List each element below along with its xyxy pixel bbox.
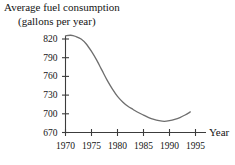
x-axis-title: Year: [209, 126, 229, 138]
x-tick-label-1970: 1970: [53, 141, 79, 151]
y-tick-label-700: 700: [32, 109, 58, 119]
x-tick-label-1990: 1990: [157, 141, 183, 151]
x-tick-label-1995: 1995: [183, 141, 209, 151]
fuel-consumption-curve: [66, 35, 191, 121]
axes-group: [66, 36, 207, 133]
y-tick-label-670: 670: [32, 128, 58, 138]
y-tick-label-730: 730: [32, 90, 58, 100]
x-tick-label-1975: 1975: [79, 141, 105, 151]
y-tick-label-790: 790: [32, 53, 58, 63]
chart-page: Average fuel consumption (gallons per ye…: [0, 0, 235, 165]
y-tick-label-760: 760: [32, 71, 58, 81]
y-tick-label-820: 820: [32, 34, 58, 44]
x-tick-label-1985: 1985: [131, 141, 157, 151]
x-tick-label-1980: 1980: [105, 141, 131, 151]
